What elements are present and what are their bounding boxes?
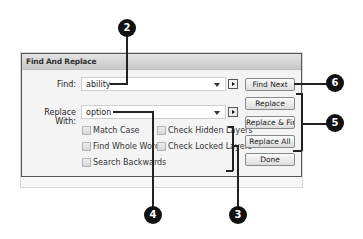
callout-4-line (152, 111, 154, 208)
replace-all-button[interactable]: Replace All (245, 135, 295, 148)
done-button[interactable]: Done (245, 153, 295, 166)
search-backwards-label[interactable]: Search Backwards (93, 158, 166, 167)
check-hidden-layers-label[interactable]: Check Hidden Layers (168, 126, 253, 135)
find-whole-word-label[interactable]: Find Whole Word (93, 142, 160, 151)
replace-button[interactable]: Replace (245, 97, 295, 110)
replace-and-find-button[interactable]: Replace & Find (245, 116, 295, 129)
dialog-titlebar[interactable]: Find And Replace (22, 54, 301, 70)
find-input[interactable]: ability (81, 77, 226, 91)
callout-4-line-h (113, 111, 154, 113)
find-label: Find: (22, 80, 76, 89)
check-locked-layers-label[interactable]: Check Locked Layers (168, 142, 252, 151)
callout-3-bracket-v (232, 126, 234, 171)
callout-5-bracket-v (301, 93, 303, 151)
callout-3-bracket-bottom (226, 170, 233, 172)
replace-dropdown-arrow-icon[interactable] (214, 111, 220, 115)
callout-4-badge: 4 (144, 206, 162, 224)
find-special-chars-button[interactable] (228, 79, 238, 89)
dialog-title: Find And Replace (26, 57, 96, 66)
find-replace-dialog: Find And Replace Find: ability Replace W… (21, 53, 302, 177)
search-backwards-checkbox[interactable] (82, 158, 91, 167)
callout-5-line (302, 123, 328, 125)
check-hidden-layers-checkbox[interactable] (157, 126, 166, 135)
find-next-button[interactable]: Find Next (245, 78, 295, 91)
find-input-value: ability (86, 80, 111, 89)
callout-2-badge: 2 (118, 19, 136, 37)
callout-3-badge: 3 (229, 206, 247, 224)
replace-label: Replace With: (22, 108, 76, 126)
replace-special-chars-button[interactable] (228, 107, 238, 117)
callout-5-badge: 5 (326, 114, 344, 132)
callout-3-line (237, 145, 239, 208)
match-case-checkbox[interactable] (82, 126, 91, 135)
callout-6-badge: 6 (326, 74, 344, 92)
callout-2-line (126, 36, 128, 84)
find-dropdown-arrow-icon[interactable] (214, 83, 220, 87)
check-locked-layers-checkbox[interactable] (157, 142, 166, 151)
replace-input-value: option (86, 108, 111, 117)
find-whole-word-checkbox[interactable] (82, 142, 91, 151)
match-case-label[interactable]: Match Case (93, 126, 140, 135)
callout-2-line-h (110, 83, 128, 85)
callout-6-line (294, 83, 328, 85)
callout-5-bracket-bottom (293, 150, 302, 152)
